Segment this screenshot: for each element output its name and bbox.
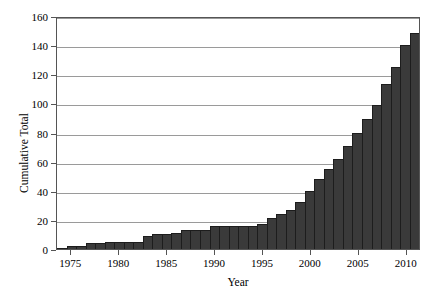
bar <box>190 230 200 249</box>
x-tick-mark <box>214 250 215 255</box>
x-tick-mark <box>262 250 263 255</box>
x-tick-mark <box>310 250 311 255</box>
bar <box>229 226 239 249</box>
bar <box>219 226 229 249</box>
bar <box>76 246 86 249</box>
bar <box>171 233 181 249</box>
bar-series <box>57 18 419 249</box>
x-tick-mark <box>70 250 71 255</box>
bar <box>295 202 305 249</box>
x-tick-mark <box>166 250 167 255</box>
bar <box>372 105 382 249</box>
bar <box>333 159 343 249</box>
bar <box>410 33 420 249</box>
y-tick-label: 60 <box>37 157 48 168</box>
bar <box>248 226 258 249</box>
bar <box>400 45 410 249</box>
bar <box>324 169 334 249</box>
bar <box>143 236 153 249</box>
x-tick-label: 1995 <box>251 258 273 269</box>
bar <box>276 214 286 249</box>
bar <box>181 230 191 249</box>
bar <box>162 234 172 249</box>
bar <box>200 230 210 249</box>
x-axis: Year 19751980198519901995200020052010 <box>56 250 420 306</box>
y-tick-label: 140 <box>32 41 49 52</box>
bar <box>362 119 372 249</box>
x-tick-mark <box>358 250 359 255</box>
y-tick-label: 80 <box>37 128 48 139</box>
bar <box>381 84 391 249</box>
bar <box>114 242 124 249</box>
bar <box>343 146 353 249</box>
plot-area <box>56 17 420 250</box>
y-tick-label: 20 <box>37 215 48 226</box>
bar <box>305 191 315 249</box>
x-tick-label: 1980 <box>107 258 129 269</box>
y-tick-label: 40 <box>37 186 48 197</box>
y-axis-title: Cumulative Total <box>18 83 30 223</box>
bar <box>133 242 143 249</box>
x-tick-mark <box>406 250 407 255</box>
y-tick-label: 160 <box>32 12 49 23</box>
x-tick-label: 1985 <box>155 258 177 269</box>
bar <box>352 133 362 250</box>
x-tick-label: 2005 <box>347 258 369 269</box>
bar <box>286 210 296 249</box>
bar <box>391 67 401 249</box>
bar <box>105 242 115 249</box>
x-tick-label: 1975 <box>59 258 81 269</box>
bar <box>257 224 267 249</box>
x-tick-label: 1990 <box>203 258 225 269</box>
x-tick-mark <box>118 250 119 255</box>
bar <box>95 243 105 249</box>
chart-figure: Cumulative Total 020406080100120140160 Y… <box>0 0 435 306</box>
bar <box>267 218 277 249</box>
y-axis: Cumulative Total 020406080100120140160 <box>0 0 56 306</box>
x-axis-title: Year <box>56 276 420 288</box>
y-tick-label: 0 <box>43 245 49 256</box>
bar <box>152 234 162 249</box>
bar <box>210 226 220 249</box>
y-tick-label: 120 <box>32 70 49 81</box>
x-tick-label: 2000 <box>299 258 321 269</box>
x-tick-label: 2010 <box>395 258 417 269</box>
y-tick-label: 100 <box>32 99 49 110</box>
bar <box>86 243 96 249</box>
bar <box>67 246 77 249</box>
bar <box>57 248 67 249</box>
bar <box>238 226 248 249</box>
bar <box>314 179 324 249</box>
bar <box>124 242 134 249</box>
